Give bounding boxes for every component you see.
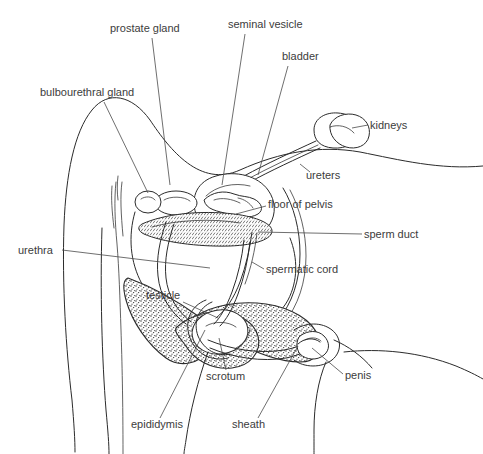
kidney-shape — [314, 113, 369, 148]
label-ureters: ureters — [306, 169, 341, 181]
label-seminal-vesicle: seminal vesicle — [228, 18, 303, 30]
label-urethra: urethra — [18, 244, 54, 256]
label-kidneys: kidneys — [370, 119, 408, 131]
label-sperm-duct: sperm duct — [364, 228, 418, 240]
bulbourethral-shape — [135, 191, 161, 213]
label-scrotum: scrotum — [206, 370, 245, 382]
label-spermatic-cord: spermatic cord — [266, 263, 338, 275]
label-bulbourethral-gland: bulbourethral gland — [40, 86, 134, 98]
label-floor-of-pelvis: floor of pelvis — [268, 198, 333, 210]
label-bladder: bladder — [282, 50, 319, 62]
label-epididymis: epididymis — [131, 418, 183, 430]
anatomy-diagram: prostate gland seminal vesicle bladder b… — [0, 0, 483, 454]
label-testicle: testicle — [146, 289, 180, 301]
label-sheath: sheath — [232, 418, 265, 430]
label-prostate-gland: prostate gland — [110, 22, 180, 34]
label-penis: penis — [345, 369, 372, 381]
anatomy-figure: prostate gland seminal vesicle bladder b… — [0, 0, 483, 454]
